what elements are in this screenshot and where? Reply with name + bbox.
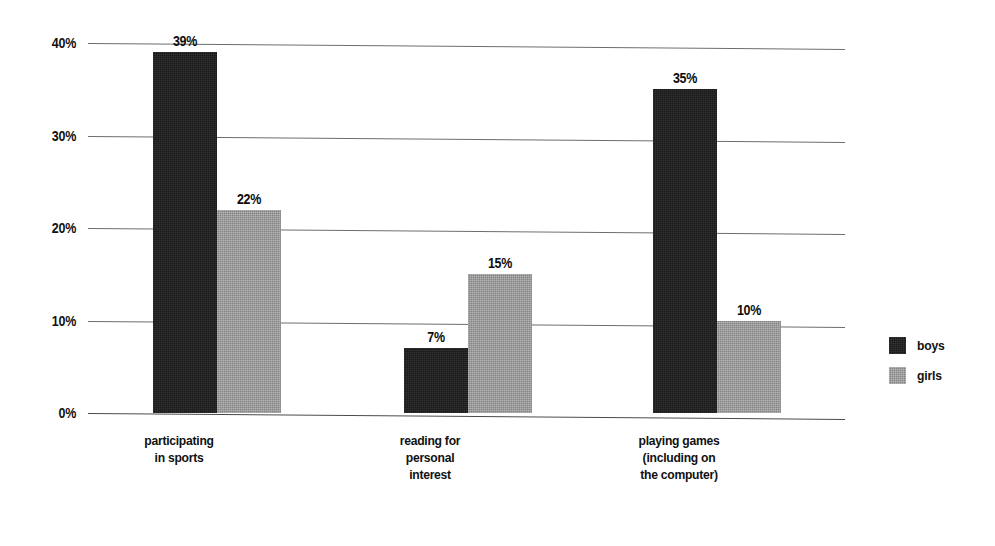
x-axis-label-participating-in-sports: participating in sports <box>102 432 257 466</box>
y-tick-label-4: 40% <box>24 35 76 51</box>
bar-group-playing-games: 35% 10% <box>653 43 781 413</box>
x-axis-line <box>88 413 845 420</box>
x-axis-label-playing-games: playing games (including on the computer… <box>602 432 757 483</box>
bar-boys-participating-in-sports[interactable]: 39% <box>153 52 217 413</box>
bar-value-label: 35% <box>673 70 697 86</box>
bar-girls-participating-in-sports[interactable]: 22% <box>217 210 281 414</box>
y-tick-label-1: 10% <box>24 313 76 329</box>
legend-swatch-boys-icon <box>889 337 906 354</box>
bar-value-label: 15% <box>488 255 512 271</box>
legend: boys girls <box>889 330 948 390</box>
legend-label-girls: girls <box>917 368 942 383</box>
legend-label-boys: boys <box>917 338 945 353</box>
bar-group-reading-for-personal-interest: 7% 15% <box>404 43 532 413</box>
plot-area: 39% 22% 7% 15% 35% 10% <box>88 43 845 413</box>
bar-value-label: 39% <box>173 33 197 49</box>
legend-item-girls[interactable]: girls <box>889 360 948 390</box>
bar-value-label: 22% <box>237 191 261 207</box>
x-axis-label-reading-for-personal-interest: reading for personal interest <box>353 432 508 483</box>
bar-value-label: 10% <box>737 302 761 318</box>
bar-boys-reading-for-personal-interest[interactable]: 7% <box>404 348 468 413</box>
bar-chart: 0% 10% 20% 30% 40% 39% 22% 7% 15% <box>0 0 995 546</box>
legend-item-boys[interactable]: boys <box>889 330 948 360</box>
y-axis-ticks: 0% 10% 20% 30% 40% <box>14 43 76 413</box>
y-tick-label-0: 0% <box>24 405 76 421</box>
bar-girls-playing-games[interactable]: 10% <box>717 321 781 414</box>
bar-girls-reading-for-personal-interest[interactable]: 15% <box>468 274 532 413</box>
bar-group-participating-in-sports: 39% 22% <box>153 43 281 413</box>
bar-value-label: 7% <box>427 329 445 345</box>
y-tick-label-2: 20% <box>24 220 76 236</box>
y-tick-label-3: 30% <box>24 128 76 144</box>
bar-boys-playing-games[interactable]: 35% <box>653 89 717 413</box>
legend-swatch-girls-icon <box>889 367 906 384</box>
